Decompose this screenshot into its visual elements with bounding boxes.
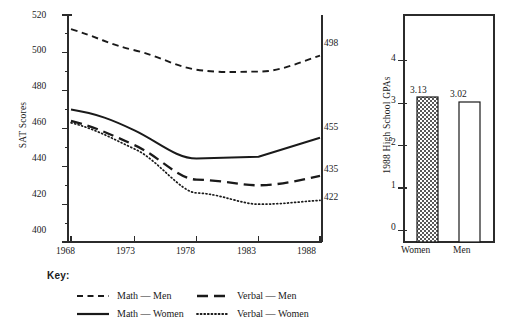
key-title: Key: (47, 270, 69, 281)
key-label-verbal-women: Verbal — Women (237, 308, 309, 319)
sat-scores-and-gpa-figure: SAT Scores 520 500 480 460 440 420 400 1… (0, 0, 507, 330)
key-item-math-women: Math — Women (76, 308, 184, 319)
hs-gpa-bar-chart: 1988 High School GPAs 4 3 2 1 0 3.13 3.0… (366, 0, 507, 268)
bar-chart-y-ticks (398, 61, 407, 231)
key-label-verbal-men: Verbal — Men (237, 290, 296, 301)
key-item-math-men: Math — Men (76, 290, 171, 301)
key-swatch-long-dashed-icon (196, 291, 230, 301)
line-chart-axes (68, 15, 322, 242)
line-chart-plot-area (0, 0, 365, 268)
series-line-verbal-women (71, 123, 320, 204)
chart-key: Key: Math — Men Verbal — Men (0, 266, 365, 330)
bar-men (459, 102, 480, 242)
key-swatch-solid-icon (76, 309, 110, 319)
key-swatch-dotted-icon (196, 309, 230, 319)
bar-chart-plot-area (366, 0, 507, 268)
key-item-verbal-women: Verbal — Women (196, 308, 309, 319)
key-label-math-women: Math — Women (117, 308, 184, 319)
bar-women (417, 97, 438, 242)
key-label-math-men: Math — Men (117, 290, 171, 301)
key-swatch-dashed-icon (76, 291, 110, 301)
line-chart-x-ticks (71, 236, 320, 242)
key-item-verbal-men: Verbal — Men (196, 290, 296, 301)
line-chart-y-major-ticks (62, 15, 68, 242)
series-line-verbal-men (71, 121, 320, 185)
sat-scores-line-chart: SAT Scores 520 500 480 460 440 420 400 1… (0, 0, 365, 268)
series-line-math-men (71, 29, 320, 72)
